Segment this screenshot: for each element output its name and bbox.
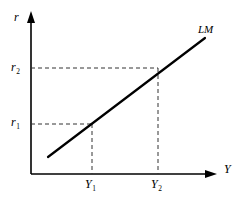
x-tick-label-y2-subscript: 2 [158, 184, 162, 193]
y-axis-arrowhead [27, 11, 35, 23]
lm-curve-line [48, 38, 205, 157]
y-tick-label-r1-text: r [11, 115, 16, 129]
y-axis-label: r [14, 11, 19, 23]
y-tick-label-r1: r1 [11, 116, 19, 128]
y-tick-label-r2-text: r [11, 60, 16, 74]
lm-curve-figure: r Y LM r2 r1 Y1 Y2 [0, 0, 242, 207]
y-tick-label-r2-subscript: 2 [16, 67, 20, 76]
x-tick-label-y1: Y1 [85, 178, 95, 190]
x-tick-label-y2: Y2 [151, 178, 161, 190]
x-tick-label-y1-subscript: 1 [92, 184, 96, 193]
x-tick-label-y2-text: Y [151, 177, 158, 191]
x-axis-label: Y [224, 163, 231, 175]
lm-curve-label: LM [198, 24, 213, 35]
y-tick-label-r1-subscript: 1 [16, 122, 20, 131]
y-tick-label-r2: r2 [11, 61, 19, 73]
x-axis-arrowhead [205, 170, 217, 178]
x-tick-label-y1-text: Y [85, 177, 92, 191]
